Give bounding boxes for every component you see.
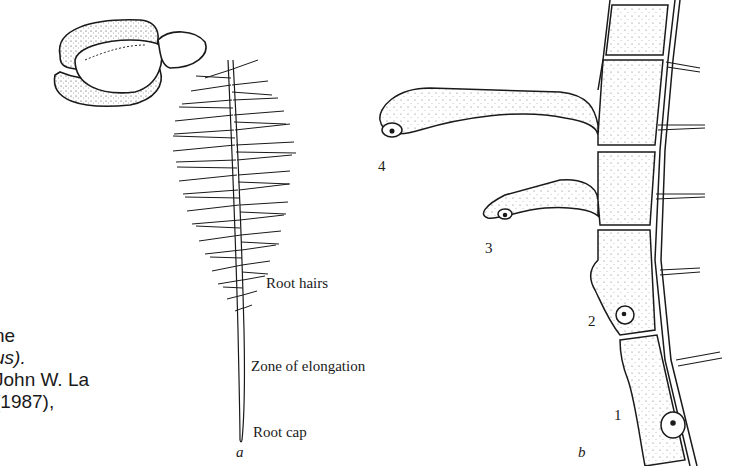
stage-number-3: 3 bbox=[485, 240, 493, 257]
root-hairs-drawing bbox=[173, 60, 296, 442]
stage-number-4: 4 bbox=[378, 158, 386, 175]
panel-letter-b: b bbox=[578, 444, 586, 461]
caption-line-4: (1987), bbox=[0, 391, 89, 413]
label-root-hairs: Root hairs bbox=[266, 275, 328, 292]
caption-line-2: us). bbox=[0, 347, 89, 369]
root-illustration bbox=[0, 0, 744, 466]
epidermis-cells-drawing bbox=[380, 0, 722, 466]
caption-line-1: ne bbox=[0, 325, 89, 347]
panel-letter-a: a bbox=[236, 444, 244, 461]
caption-line-3: John W. La bbox=[0, 369, 89, 391]
stage-number-2: 2 bbox=[588, 313, 596, 330]
label-root-cap: Root cap bbox=[253, 424, 307, 441]
stage-number-1: 1 bbox=[614, 407, 622, 424]
figure-caption-fragment: ne us). John W. La (1987), bbox=[0, 325, 89, 413]
label-zone-of-elongation: Zone of elongation bbox=[251, 358, 365, 375]
seed-drawing bbox=[54, 20, 205, 106]
